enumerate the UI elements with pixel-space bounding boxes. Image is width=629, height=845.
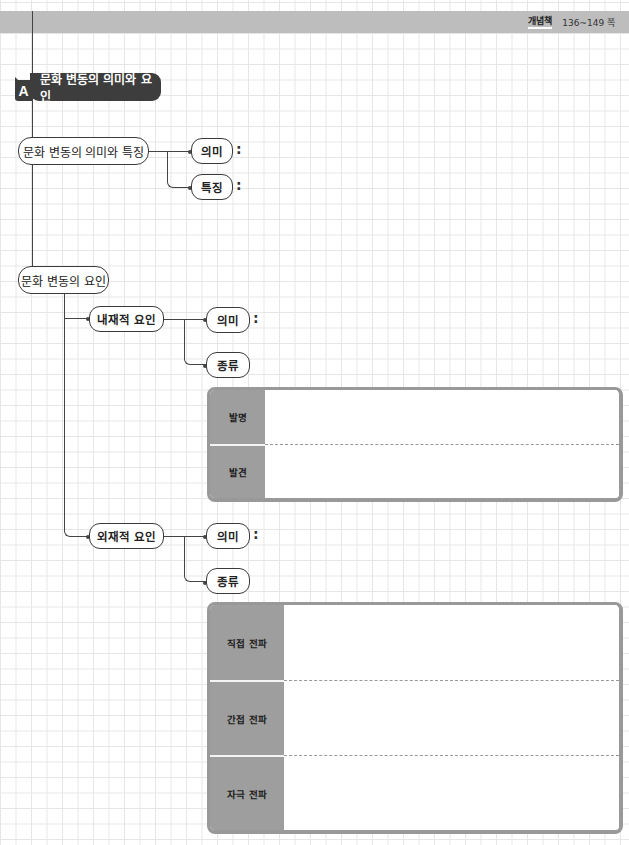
connector-elbow xyxy=(184,536,206,582)
node-label: 내재적 요인 xyxy=(97,311,156,327)
connector-elbow xyxy=(184,319,206,365)
page-range: 136~149 쪽 xyxy=(562,16,615,29)
node-internal-types: 종류 xyxy=(206,352,250,378)
node-label: 외재적 요인 xyxy=(97,528,156,544)
node-label: 문화 변동의 의미와 특징 xyxy=(23,143,144,160)
answer-colon: : xyxy=(253,310,259,326)
answer-field-direct-diffusion[interactable] xyxy=(284,605,619,680)
internal-factor-table: 발명 발견 xyxy=(207,387,623,502)
row-label: 발명 xyxy=(210,390,265,444)
table-row: 간접 전파 xyxy=(210,680,619,755)
node-label: 의미 xyxy=(217,528,239,544)
connector-elbow xyxy=(64,318,89,537)
row-label: 발견 xyxy=(210,444,265,498)
answer-field-indirect-diffusion[interactable] xyxy=(284,680,619,755)
node-meaning: 의미 xyxy=(191,138,233,164)
page-reference: 개념책 136~149 쪽 xyxy=(528,11,615,33)
external-factor-table: 직접 전파 간접 전파 자극 전파 xyxy=(207,602,623,834)
answer-field-invention[interactable] xyxy=(265,390,619,444)
node-label: 문화 변동의 요인 xyxy=(21,272,106,289)
table-row: 발견 xyxy=(210,444,619,498)
connector-elbow xyxy=(167,151,191,188)
row-label: 직접 전파 xyxy=(210,605,284,680)
answer-colon: : xyxy=(253,526,259,542)
table-row: 자극 전파 xyxy=(210,755,619,830)
row-label: 자극 전파 xyxy=(210,755,284,830)
node-internal-factor: 내재적 요인 xyxy=(89,306,164,332)
node-label: 의미 xyxy=(201,143,223,159)
node-features: 특징 xyxy=(191,174,233,200)
answer-colon: : xyxy=(236,177,242,193)
table-row: 발명 xyxy=(210,390,619,444)
node-label: 종류 xyxy=(217,357,239,373)
factors-spine-line xyxy=(64,294,65,318)
node-meaning-and-features: 문화 변동의 의미와 특징 xyxy=(18,137,149,165)
answer-field-stimulus-diffusion[interactable] xyxy=(284,755,619,830)
section-title: 문화 변동의 의미와 요인 xyxy=(30,73,161,101)
node-external-meaning: 의미 xyxy=(206,523,250,549)
answer-colon: : xyxy=(236,141,242,157)
section-badge: A xyxy=(15,80,32,101)
row-label: 간접 전파 xyxy=(210,680,284,755)
node-label: 의미 xyxy=(217,312,239,328)
node-factors: 문화 변동의 요인 xyxy=(18,266,109,294)
node-label: 특징 xyxy=(201,179,223,195)
node-external-types: 종류 xyxy=(206,568,250,594)
node-label: 종류 xyxy=(217,573,239,589)
book-label: 개념책 xyxy=(528,16,552,29)
answer-field-discovery[interactable] xyxy=(265,444,619,498)
node-internal-meaning: 의미 xyxy=(206,307,250,333)
section-title-text: 문화 변동의 의미와 요인 xyxy=(40,70,161,104)
table-row: 직접 전파 xyxy=(210,605,619,680)
node-external-factor: 외재적 요인 xyxy=(89,523,164,549)
